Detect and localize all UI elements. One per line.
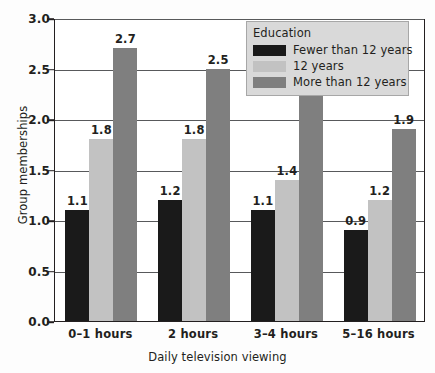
- bar-value-label: 1.1: [67, 194, 88, 208]
- x-tick-label: 2 hours: [168, 327, 218, 341]
- legend-item-label: Fewer than 12 years: [293, 43, 413, 57]
- legend: Education Fewer than 12 years12 yearsMor…: [246, 21, 409, 96]
- y-tick-label: 0.5: [10, 265, 50, 279]
- bar[interactable]: 1.8: [89, 139, 113, 321]
- y-tick-mark: [47, 271, 54, 273]
- bar[interactable]: 1.9: [392, 129, 416, 321]
- bar[interactable]: 1.4: [275, 180, 299, 321]
- bar[interactable]: 2.3: [299, 89, 323, 321]
- bar[interactable]: 2.5: [206, 69, 230, 322]
- legend-item-label: More than 12 years: [293, 75, 407, 89]
- x-axis-title: Daily television viewing: [0, 350, 435, 364]
- y-tick-mark: [47, 321, 54, 323]
- bar-value-label: 0.9: [345, 214, 366, 228]
- bar-value-label: 1.2: [369, 184, 390, 198]
- legend-item-label: 12 years: [293, 59, 344, 73]
- bar[interactable]: 1.1: [251, 210, 275, 321]
- bar-value-label: 1.8: [91, 123, 112, 137]
- x-tick-label: 3–4 hours: [254, 327, 318, 341]
- bar[interactable]: 1.2: [158, 200, 182, 321]
- y-tick-mark: [47, 18, 54, 20]
- y-tick-label: 0.0: [10, 315, 50, 329]
- y-tick-mark: [47, 69, 54, 71]
- y-tick-mark: [47, 220, 54, 222]
- bar[interactable]: 2.7: [113, 48, 137, 321]
- bar[interactable]: 1.8: [182, 139, 206, 321]
- x-tick-label: 5–16 hours: [342, 327, 415, 341]
- legend-color-swatch: [253, 77, 286, 88]
- bar-chart: Group memberships 1.11.82.71.21.82.51.11…: [0, 0, 435, 373]
- bar-value-label: 2.7: [115, 32, 136, 46]
- bar-value-label: 1.4: [276, 164, 297, 178]
- bar-value-label: 1.1: [252, 194, 273, 208]
- bar-value-label: 1.8: [184, 123, 205, 137]
- legend-item[interactable]: Fewer than 12 years: [253, 42, 402, 58]
- bar-value-label: 1.2: [160, 184, 181, 198]
- bar-value-label: 2.5: [208, 53, 229, 67]
- legend-color-swatch: [253, 61, 286, 72]
- y-tick-mark: [47, 170, 54, 172]
- x-tick-label: 0–1 hours: [68, 327, 132, 341]
- legend-item[interactable]: More than 12 years: [253, 74, 402, 90]
- bar[interactable]: 0.9: [344, 230, 368, 321]
- bar[interactable]: 1.1: [65, 210, 89, 321]
- y-tick-label: 2.0: [10, 113, 50, 127]
- legend-items: Fewer than 12 years12 yearsMore than 12 …: [253, 42, 402, 90]
- legend-color-swatch: [253, 45, 286, 56]
- gridline: [55, 120, 424, 121]
- y-tick-label: 1.5: [10, 164, 50, 178]
- legend-item[interactable]: 12 years: [253, 58, 402, 74]
- y-tick-label: 1.0: [10, 214, 50, 228]
- y-tick-label: 3.0: [10, 12, 50, 26]
- y-tick-mark: [47, 119, 54, 121]
- legend-title: Education: [253, 26, 402, 40]
- y-tick-label: 2.5: [10, 63, 50, 77]
- bar-value-label: 1.9: [393, 113, 414, 127]
- bar[interactable]: 1.2: [368, 200, 392, 321]
